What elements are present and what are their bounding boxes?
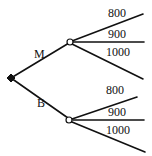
decision-tree-diagram: M B 800 900 1000 800 900 1000 <box>0 0 152 156</box>
m-outcome-label-800: 800 <box>108 6 126 20</box>
m-chance-node <box>67 39 73 45</box>
m-outcome-label-900: 900 <box>108 27 126 41</box>
b-outcome-label-800: 800 <box>106 83 124 97</box>
b-outcome-label-1000: 1000 <box>106 123 130 137</box>
branch-label-b: B <box>37 96 45 110</box>
edge-b-800 <box>72 97 137 119</box>
b-outcome-label-900: 900 <box>108 105 126 119</box>
m-outcome-label-1000: 1000 <box>106 45 130 59</box>
branch-label-m: M <box>34 47 45 61</box>
b-chance-node <box>66 117 72 123</box>
